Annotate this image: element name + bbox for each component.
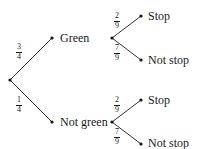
not-green-stop-node: [139, 98, 142, 101]
not-green-split-node: [110, 120, 113, 123]
not-green-not-stop-node: [139, 142, 142, 145]
label-green-not-stop: Not stop: [148, 54, 189, 66]
prob-green-stop: 2 9: [114, 12, 120, 30]
label-not-green-not-stop: Not stop: [148, 137, 189, 149]
prob-den: 9: [115, 22, 119, 30]
prob-not-green-den: 4: [17, 106, 21, 114]
prob-green: 3 4: [16, 43, 22, 61]
label-not-green-stop: Stop: [148, 94, 170, 106]
green-stop-node: [139, 14, 142, 17]
prob-den: 9: [115, 54, 119, 62]
label-green: Green: [60, 32, 89, 44]
label-not-green: Not green: [60, 116, 108, 128]
prob-not-green-not-stop: 7 9: [114, 128, 120, 146]
prob-num: 7: [115, 44, 119, 52]
green-not-stop-node: [139, 58, 142, 61]
green-node: [50, 36, 53, 39]
green-split-node: [110, 36, 113, 39]
not-green-node: [50, 120, 53, 123]
prob-num: 2: [115, 96, 119, 104]
prob-not-green: 1 4: [16, 96, 22, 114]
prob-green-num: 3: [17, 43, 21, 51]
prob-not-green-stop: 2 9: [114, 96, 120, 114]
root-node: [8, 78, 11, 81]
prob-den: 9: [115, 106, 119, 114]
prob-green-den: 4: [17, 53, 21, 61]
label-green-stop: Stop: [148, 10, 170, 22]
prob-not-green-num: 1: [17, 96, 21, 104]
prob-num: 2: [115, 12, 119, 20]
prob-den: 9: [115, 138, 119, 146]
prob-green-not-stop: 7 9: [114, 44, 120, 62]
prob-num: 7: [115, 128, 119, 136]
